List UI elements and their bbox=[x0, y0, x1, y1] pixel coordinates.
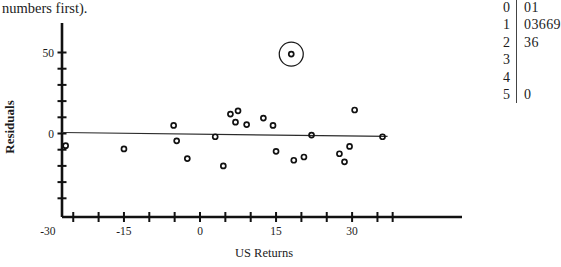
stem-row: 3 bbox=[497, 51, 561, 68]
data-point bbox=[213, 134, 218, 139]
stem-value: 0 bbox=[497, 0, 516, 16]
residual-scatter-plot: 500-30-1501530US ReturnsResiduals bbox=[0, 0, 480, 267]
x-tick-label: -15 bbox=[116, 225, 132, 237]
y-tick-label: 50 bbox=[43, 47, 55, 59]
scatter-plot-canvas: 500-30-1501530US ReturnsResiduals bbox=[0, 0, 480, 267]
y-axis-title: Residuals bbox=[2, 100, 17, 153]
outlier-annotation-circle bbox=[279, 42, 303, 66]
data-point bbox=[261, 116, 266, 121]
stem-value: 4 bbox=[497, 69, 516, 86]
stem-divider bbox=[516, 51, 517, 68]
stem-divider bbox=[516, 69, 517, 86]
data-point bbox=[337, 151, 342, 156]
data-point bbox=[121, 146, 126, 151]
stem-leaves: 01 bbox=[517, 0, 539, 16]
x-tick-label: 30 bbox=[346, 225, 358, 237]
data-point-outlier bbox=[289, 52, 294, 57]
stem-row: 2 36 bbox=[497, 34, 561, 51]
fitted-reference-line bbox=[62, 133, 388, 137]
x-tick-label: 15 bbox=[270, 225, 282, 237]
stem-row: 0 01 bbox=[497, 0, 561, 16]
data-point bbox=[244, 122, 249, 127]
data-point bbox=[63, 143, 68, 148]
data-point bbox=[274, 149, 279, 154]
data-point bbox=[228, 112, 233, 117]
data-point bbox=[291, 158, 296, 163]
stem-value: 5 bbox=[497, 86, 516, 103]
data-point bbox=[352, 108, 357, 113]
data-point bbox=[174, 138, 179, 143]
stem-leaves: 36 bbox=[517, 34, 539, 51]
stem-row: 4 bbox=[497, 69, 561, 86]
x-tick-label: 0 bbox=[197, 225, 203, 237]
data-point bbox=[301, 154, 306, 159]
data-point bbox=[347, 144, 352, 149]
x-axis-title: US Returns bbox=[235, 246, 293, 260]
x-tick-label: -30 bbox=[40, 225, 56, 237]
stem-value: 1 bbox=[497, 16, 516, 33]
stem-leaves: 0 bbox=[517, 86, 531, 103]
data-point bbox=[342, 159, 347, 164]
y-tick-label: 0 bbox=[48, 128, 54, 140]
data-point bbox=[171, 123, 176, 128]
data-point bbox=[271, 123, 276, 128]
data-point bbox=[233, 120, 238, 125]
stem-row: 5 0 bbox=[497, 86, 561, 103]
stem-leaves: 03669 bbox=[517, 16, 561, 33]
stem-row: 1 03669 bbox=[497, 16, 561, 33]
data-point bbox=[221, 163, 226, 168]
data-point bbox=[236, 108, 241, 113]
stem-value: 3 bbox=[497, 51, 516, 68]
stem-value: 2 bbox=[497, 34, 516, 51]
data-point bbox=[185, 156, 190, 161]
stem-and-leaf-plot: 0 01 1 03669 2 36 3 4 5 0 bbox=[497, 0, 561, 103]
